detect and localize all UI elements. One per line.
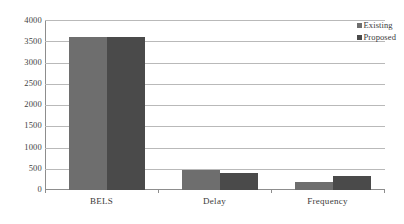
x-axis-tickmark — [384, 190, 385, 193]
y-axis-tick-labels: 4000 3500 3000 2500 2000 1500 1000 500 0 — [0, 0, 42, 224]
bar-group-delay — [182, 20, 258, 190]
y-axis-tick-label: 500 — [2, 164, 42, 173]
bar-chart: 4000 3500 3000 2500 2000 1500 1000 500 0 — [0, 0, 404, 224]
x-axis-tickmark — [45, 190, 46, 193]
bar-bels-existing — [69, 37, 107, 190]
chart-legend: Existing Proposed — [357, 20, 396, 43]
y-axis-tick-label: 3000 — [2, 58, 42, 67]
square-marker-icon — [357, 23, 362, 28]
y-axis-tick-label: 2500 — [2, 79, 42, 88]
y-axis-tick-label: 4000 — [2, 16, 42, 25]
bar-bels-proposed — [107, 37, 145, 190]
x-axis-label-frequency: Frequency — [271, 196, 384, 206]
bar-group-frequency — [295, 20, 371, 190]
y-axis-tick-label: 0 — [2, 185, 42, 194]
legend-label-existing: Existing — [364, 21, 393, 30]
square-marker-icon — [357, 35, 362, 40]
legend-item-existing: Existing — [357, 20, 393, 31]
y-axis-tick-label: 2000 — [2, 100, 42, 109]
bar-delay-existing — [182, 170, 220, 190]
y-axis-tick-label: 1000 — [2, 143, 42, 152]
x-axis-label-delay: Delay — [158, 196, 271, 206]
legend-label-proposed: Proposed — [364, 33, 396, 42]
x-axis-tickmark — [158, 190, 159, 193]
y-axis-tick-label: 3500 — [2, 37, 42, 46]
bar-frequency-proposed — [333, 176, 371, 190]
y-axis-tick-label: 1500 — [2, 121, 42, 130]
bar-group-bels — [69, 20, 145, 190]
x-axis-label-bels: BELS — [45, 196, 158, 206]
x-axis-tickmark — [271, 190, 272, 193]
legend-item-proposed: Proposed — [357, 32, 396, 43]
bar-frequency-existing — [295, 182, 333, 190]
plot-area — [45, 20, 385, 190]
bar-delay-proposed — [220, 173, 258, 190]
